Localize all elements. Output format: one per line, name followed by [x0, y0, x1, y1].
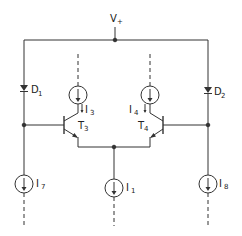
i8-label-sub: 8	[224, 183, 228, 191]
diode-icon	[20, 85, 28, 91]
arrow-down-icon	[76, 98, 81, 102]
arrow-down-icon	[22, 187, 27, 191]
i1-label-sub: 1	[131, 187, 135, 195]
arrow-down-icon	[206, 187, 211, 191]
supply-label-sub: +	[117, 18, 123, 26]
i1-label: I	[126, 182, 129, 193]
current-source-i8: I 8	[199, 175, 228, 226]
i4-label-sub: 4	[134, 109, 139, 117]
diode-icon	[204, 87, 212, 93]
i7-label-sub: 7	[41, 183, 45, 191]
t3-label-sub: 3	[84, 125, 88, 133]
supply-label: V	[110, 13, 117, 24]
arrow-down-icon	[148, 98, 153, 102]
supply-node: V +	[110, 13, 123, 42]
i3-label-sub: 3	[90, 109, 94, 117]
d1-label-sub: 1	[38, 90, 42, 98]
current-source-i4: I 4	[129, 54, 159, 117]
i8-label: I	[219, 178, 222, 189]
i7-label: I	[36, 178, 39, 189]
d2-label-sub: 2	[221, 92, 225, 100]
arrow-down-icon	[112, 191, 117, 195]
current-source-i7: I 7	[15, 175, 45, 226]
junction-dot	[206, 123, 210, 127]
arrow-down-icon	[81, 110, 84, 113]
transistor-t3: T 3	[64, 113, 88, 147]
diode-d2: D 2	[204, 40, 225, 175]
emitter-arrow-icon	[72, 133, 78, 138]
arrow-down-icon	[144, 110, 147, 113]
transistor-t4: T 4	[137, 113, 163, 147]
diode-d1: D 1	[20, 40, 42, 175]
current-source-i1: I 1	[105, 179, 135, 226]
current-source-i3: I 3	[69, 54, 94, 117]
i3-label: I	[85, 104, 88, 115]
junction-dot	[22, 123, 26, 127]
circuit-diagram: V + D 1 D 2 I 3	[0, 0, 242, 236]
i4-label: I	[129, 104, 132, 115]
t4-label-sub: 4	[144, 125, 149, 133]
